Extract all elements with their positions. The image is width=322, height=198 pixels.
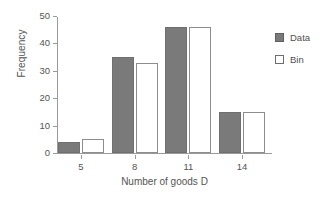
y-axis-tick-mark [53,126,57,127]
x-axis-tick-label: 5 [67,161,95,172]
x-axis-tick-mark [242,155,243,159]
bar-data-5 [58,142,80,153]
y-axis-tick: 50 [27,16,57,17]
x-axis-line [57,153,272,154]
y-axis-tick: 0 [27,153,57,154]
y-axis-tick-label: 50 [39,10,50,21]
y-axis-tick-mark [53,71,57,72]
x-axis-tick-label: 8 [121,161,149,172]
bar-chart-figure: Frequency 01020304050 581114 Number of g… [0,0,322,198]
bar-bin-8 [136,63,158,153]
bar-bin-5 [82,139,104,153]
y-axis-tick-mark [53,153,57,154]
bar-data-14 [219,112,241,153]
bar-data-8 [112,57,134,153]
legend-label-bin: Bin [290,54,304,65]
y-axis-tick-label: 30 [39,65,50,76]
x-axis-tick-label: 14 [228,161,256,172]
chart-legend: Data Bin [275,26,322,70]
x-axis-tick-mark [135,155,136,159]
y-axis-title: Frequency [16,0,27,109]
y-axis-tick: 40 [27,43,57,44]
y-axis-tick-label: 10 [39,120,50,131]
bar-data-11 [165,27,187,153]
y-axis-tick-label: 20 [39,92,50,103]
x-axis-tick-mark [81,155,82,159]
y-axis-tick: 30 [27,71,57,72]
y-axis-tick-mark [53,98,57,99]
y-axis-tick-label: 0 [45,147,50,158]
y-axis-tick: 10 [27,126,57,127]
legend-swatch-data-icon [275,33,284,42]
bar-bin-14 [243,112,265,153]
y-axis-tick: 20 [27,98,57,99]
y-axis-line [57,17,58,154]
legend-item-bin: Bin [275,48,322,70]
plot-area: 01020304050 581114 [57,17,272,154]
bar-bin-11 [189,27,211,153]
y-axis-tick-mark [53,43,57,44]
y-axis-tick-mark [53,16,57,17]
legend-label-data: Data [290,32,310,43]
legend-item-data: Data [275,26,322,48]
y-axis-tick-label: 40 [39,37,50,48]
x-axis-title: Number of goods D [57,176,272,187]
x-axis-tick-label: 11 [174,161,202,172]
legend-swatch-bin-icon [275,55,284,64]
x-axis-tick-mark [188,155,189,159]
